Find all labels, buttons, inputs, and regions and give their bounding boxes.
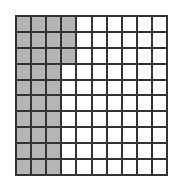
empty-cell <box>137 111 152 127</box>
shaded-cell <box>16 80 31 96</box>
empty-cell <box>152 159 167 175</box>
empty-cell <box>137 32 152 48</box>
hundred-grid <box>15 15 168 176</box>
empty-cell <box>76 143 91 159</box>
empty-cell <box>61 127 76 143</box>
empty-cell <box>122 143 137 159</box>
empty-cell <box>152 32 167 48</box>
empty-cell <box>61 143 76 159</box>
empty-cell <box>76 32 91 48</box>
empty-cell <box>107 32 122 48</box>
shaded-cell <box>16 111 31 127</box>
shaded-cell <box>16 143 31 159</box>
shaded-cell <box>61 48 76 64</box>
empty-cell <box>76 16 91 32</box>
shaded-cell <box>31 159 46 175</box>
shaded-cell <box>31 64 46 80</box>
empty-cell <box>122 16 137 32</box>
empty-cell <box>92 159 107 175</box>
shaded-cell <box>16 64 31 80</box>
empty-cell <box>137 95 152 111</box>
empty-cell <box>107 64 122 80</box>
shaded-cell <box>46 111 61 127</box>
empty-cell <box>92 48 107 64</box>
shaded-cell <box>16 32 31 48</box>
empty-cell <box>152 64 167 80</box>
empty-cell <box>122 80 137 96</box>
empty-cell <box>107 127 122 143</box>
empty-cell <box>122 127 137 143</box>
empty-cell <box>137 16 152 32</box>
shaded-cell <box>31 143 46 159</box>
shaded-cell <box>16 48 31 64</box>
empty-cell <box>92 16 107 32</box>
empty-cell <box>92 64 107 80</box>
empty-cell <box>152 80 167 96</box>
empty-cell <box>92 95 107 111</box>
empty-cell <box>152 143 167 159</box>
empty-cell <box>76 80 91 96</box>
empty-cell <box>92 111 107 127</box>
empty-cell <box>61 159 76 175</box>
empty-cell <box>107 95 122 111</box>
empty-cell <box>137 159 152 175</box>
shaded-cell <box>16 16 31 32</box>
shaded-cell <box>61 32 76 48</box>
shaded-cell <box>46 16 61 32</box>
shaded-cell <box>16 159 31 175</box>
shaded-cell <box>46 80 61 96</box>
shaded-cell <box>46 95 61 111</box>
shaded-cell <box>16 127 31 143</box>
empty-cell <box>152 48 167 64</box>
empty-cell <box>76 64 91 80</box>
shaded-cell <box>46 143 61 159</box>
empty-cell <box>107 159 122 175</box>
empty-cell <box>107 80 122 96</box>
shaded-cell <box>46 32 61 48</box>
empty-cell <box>107 111 122 127</box>
empty-cell <box>122 32 137 48</box>
empty-cell <box>61 111 76 127</box>
empty-cell <box>61 64 76 80</box>
shaded-cell <box>46 159 61 175</box>
empty-cell <box>92 32 107 48</box>
empty-cell <box>122 64 137 80</box>
empty-cell <box>122 95 137 111</box>
shaded-cell <box>16 95 31 111</box>
shaded-cell <box>61 16 76 32</box>
shaded-cell <box>46 127 61 143</box>
empty-cell <box>122 159 137 175</box>
empty-cell <box>76 111 91 127</box>
empty-cell <box>76 127 91 143</box>
empty-cell <box>76 95 91 111</box>
shaded-cell <box>31 95 46 111</box>
shaded-cell <box>31 111 46 127</box>
shaded-cell <box>46 48 61 64</box>
empty-cell <box>137 80 152 96</box>
empty-cell <box>61 95 76 111</box>
empty-cell <box>76 159 91 175</box>
empty-cell <box>152 111 167 127</box>
empty-cell <box>76 48 91 64</box>
shaded-cell <box>31 32 46 48</box>
shaded-cell <box>31 127 46 143</box>
empty-cell <box>122 48 137 64</box>
empty-cell <box>92 80 107 96</box>
shaded-cell <box>31 16 46 32</box>
shaded-cell <box>31 48 46 64</box>
empty-cell <box>152 127 167 143</box>
shaded-cell <box>31 80 46 96</box>
empty-cell <box>152 95 167 111</box>
empty-cell <box>152 16 167 32</box>
empty-cell <box>122 111 137 127</box>
empty-cell <box>107 16 122 32</box>
empty-cell <box>92 143 107 159</box>
empty-cell <box>107 143 122 159</box>
empty-cell <box>137 48 152 64</box>
empty-cell <box>137 127 152 143</box>
empty-cell <box>92 127 107 143</box>
shaded-cell <box>46 64 61 80</box>
empty-cell <box>137 64 152 80</box>
empty-cell <box>107 48 122 64</box>
empty-cell <box>137 143 152 159</box>
